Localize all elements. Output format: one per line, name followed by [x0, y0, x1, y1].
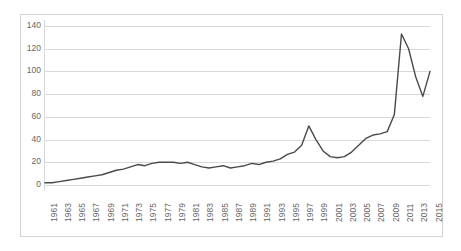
x-tick-label-2005: 2005	[362, 203, 372, 222]
x-tick-label-1993: 1993	[277, 203, 287, 222]
x-tick-label-1995: 1995	[291, 203, 301, 222]
x-tick-label-1973: 1973	[134, 203, 144, 222]
x-axis-tick-labels: 1961196319651967196919711973197519771979…	[45, 188, 430, 248]
y-tick-label-140: 140	[7, 21, 41, 30]
y-tick-label-80: 80	[7, 89, 41, 98]
plot-area	[45, 26, 430, 185]
x-tick-label-1961: 1961	[49, 203, 59, 222]
x-tick-label-1987: 1987	[234, 203, 244, 222]
x-tick-label-1963: 1963	[63, 203, 73, 222]
x-tick-label-1983: 1983	[205, 203, 215, 222]
x-tick-label-1991: 1991	[262, 203, 272, 222]
line-series-svg	[45, 26, 430, 185]
x-tick-label-2007: 2007	[376, 203, 386, 222]
x-tick-label-2015: 2015	[434, 203, 444, 222]
x-tick-label-1981: 1981	[191, 203, 201, 222]
line-series-path	[45, 34, 430, 183]
x-tick-label-1965: 1965	[77, 203, 87, 222]
x-tick-label-1979: 1979	[177, 203, 187, 222]
x-tick-label-2013: 2013	[419, 203, 429, 222]
y-tick-label-40: 40	[7, 135, 41, 144]
x-tick-label-2009: 2009	[391, 203, 401, 222]
x-tick-label-2003: 2003	[348, 203, 358, 222]
chart-container: 020406080100120140 196119631965196719691…	[0, 0, 461, 251]
x-tick-label-1969: 1969	[106, 203, 116, 222]
x-tick-label-1975: 1975	[148, 203, 158, 222]
gridline-0	[45, 185, 430, 186]
y-tick-label-0: 0	[7, 180, 41, 189]
x-tick-label-1967: 1967	[91, 203, 101, 222]
x-tick-label-2001: 2001	[334, 203, 344, 222]
y-axis-tick-labels: 020406080100120140	[0, 26, 41, 185]
y-tick-label-120: 120	[7, 44, 41, 53]
y-tick-label-60: 60	[7, 112, 41, 121]
y-tick-label-20: 20	[7, 157, 41, 166]
x-tick-label-1985: 1985	[220, 203, 230, 222]
x-tick-label-1997: 1997	[305, 203, 315, 222]
x-tick-label-1977: 1977	[163, 203, 173, 222]
x-tick-label-1989: 1989	[248, 203, 258, 222]
x-tick-label-2011: 2011	[405, 204, 415, 222]
y-tick-label-100: 100	[7, 66, 41, 75]
x-tick-label-1999: 1999	[319, 203, 329, 222]
x-tick-label-1971: 1971	[120, 203, 130, 222]
